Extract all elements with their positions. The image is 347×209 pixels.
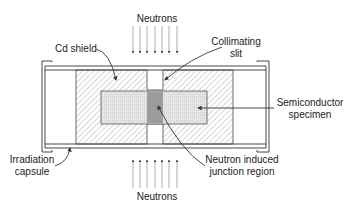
label-junction-line1: Neutron induced (205, 154, 279, 165)
label-semiconductor-line1: Semiconductor (274, 97, 346, 108)
junction-region (147, 92, 163, 123)
neutron-arrows-top (133, 26, 177, 53)
label-collimating-line2: slit (208, 48, 264, 59)
neutron-arrows-bottom (133, 160, 177, 188)
label-junction-line2: junction region (205, 166, 279, 177)
label-irradiation-line1: Irradiation (8, 154, 56, 165)
label-collimating-line1: Collimating (208, 36, 264, 47)
label-cd-shield: Cd shield (55, 43, 97, 54)
leader-irradiation (55, 148, 70, 166)
label-semiconductor-line2: specimen (274, 109, 346, 120)
label-neutrons-bottom: Neutrons (133, 191, 181, 202)
label-neutrons-top: Neutrons (133, 13, 181, 24)
label-irradiation-line2: capsule (8, 166, 56, 177)
